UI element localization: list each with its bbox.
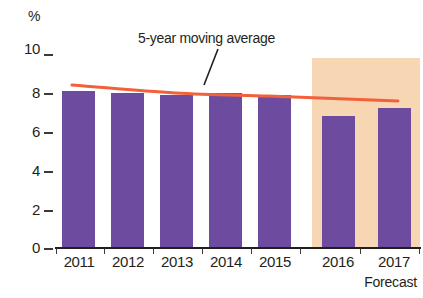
moving-average-line [72, 85, 398, 101]
annotation-leader-line [204, 49, 218, 85]
chart-figure: % 10 8 6 4 2 0 2011 2012 2013 2014 2015 … [0, 0, 423, 298]
moving-average-annotation: 5-year moving average [138, 30, 275, 46]
